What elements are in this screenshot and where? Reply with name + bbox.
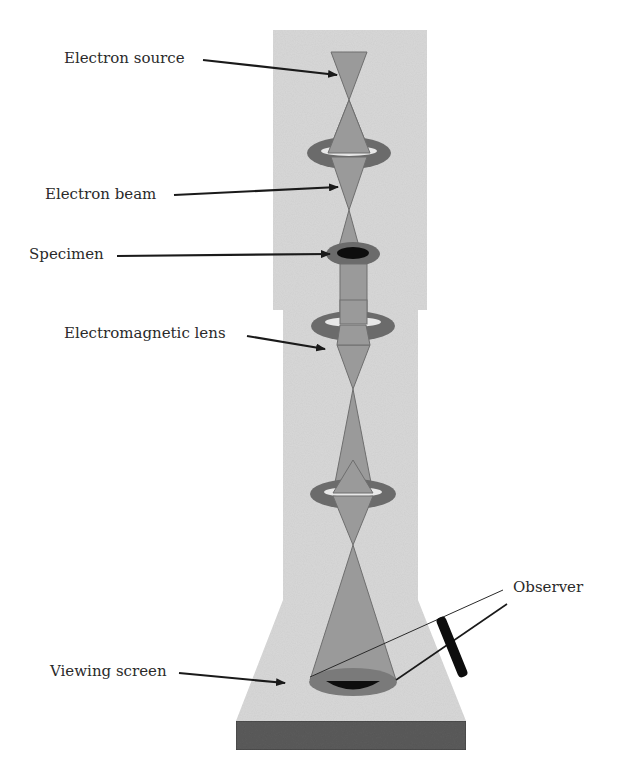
microscope-base [236, 721, 466, 750]
label-observer: Observer [513, 580, 583, 595]
label-specimen: Specimen [29, 247, 104, 262]
viewing-screen-icon [309, 668, 397, 696]
tem-diagram [0, 0, 622, 776]
specimen-icon [326, 242, 380, 266]
label-viewing-screen: Viewing screen [50, 664, 167, 679]
label-electron-source: Electron source [64, 51, 185, 66]
label-electromagnetic-lens: Electromagnetic lens [64, 326, 226, 341]
label-electron-beam: Electron beam [45, 187, 156, 202]
